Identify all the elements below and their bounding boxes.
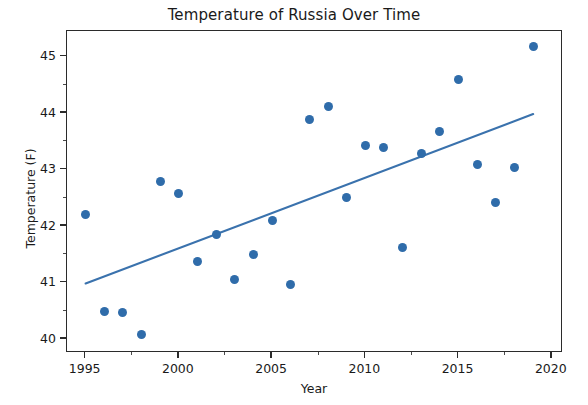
scatter-point — [174, 189, 183, 198]
x-tick-label: 2000 — [148, 361, 208, 376]
x-tick-label: 1995 — [55, 361, 115, 376]
scatter-point — [435, 127, 444, 136]
scatter-point — [156, 177, 165, 186]
x-tick-label: 2010 — [334, 361, 394, 376]
chart-title: Temperature of Russia Over Time — [0, 6, 588, 24]
x-tick-label: 2020 — [521, 361, 581, 376]
y-tick-label: 43 — [16, 161, 56, 176]
scatter-point — [212, 230, 221, 239]
y-tick-label: 41 — [16, 274, 56, 289]
scatter-point — [81, 210, 90, 219]
scatter-point — [491, 198, 500, 207]
scatter-point — [379, 143, 388, 152]
scatter-point — [473, 160, 482, 169]
y-tick-label: 45 — [16, 48, 56, 63]
x-tick-label: 2015 — [428, 361, 488, 376]
scatter-point — [193, 257, 202, 266]
y-tick-label: 44 — [16, 104, 56, 119]
scatter-point — [137, 330, 146, 339]
y-tick-label: 40 — [16, 330, 56, 345]
scatter-point — [398, 243, 407, 252]
chart-figure: Temperature of Russia Over Time Temperat… — [0, 0, 588, 405]
scatter-point — [417, 149, 426, 158]
scatter-point — [342, 193, 351, 202]
scatter-point — [361, 141, 370, 150]
x-tick-label: 2005 — [241, 361, 301, 376]
y-axis-label: Temperature (F) — [23, 109, 38, 289]
scatter-point — [510, 163, 519, 172]
scatter-point — [286, 280, 295, 289]
scatter-point — [100, 307, 109, 316]
scatter-point — [268, 216, 277, 225]
scatter-point — [454, 75, 463, 84]
scatter-point — [249, 250, 258, 259]
scatter-points — [67, 31, 561, 351]
y-tick-label: 42 — [16, 217, 56, 232]
x-axis-label: Year — [66, 381, 562, 396]
plot-area — [66, 30, 562, 352]
scatter-point — [118, 308, 127, 317]
scatter-point — [529, 42, 538, 51]
scatter-point — [305, 115, 314, 124]
scatter-point — [230, 275, 239, 284]
scatter-point — [324, 102, 333, 111]
